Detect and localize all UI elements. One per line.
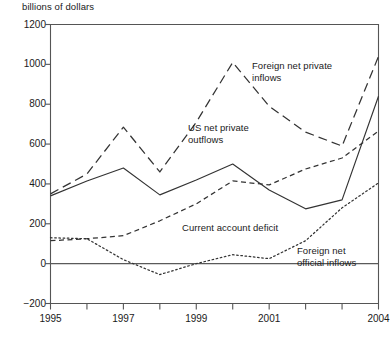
y-tick-label: 1200 [0,20,46,30]
foreign-net-private-inflows-label: Foreign net private inflows [252,60,332,83]
x-tick-label: 2004 [359,314,392,324]
current-account-deficit-label: Current account deficit [182,222,278,234]
chart-plot-area [0,0,392,345]
x-tick-label: 1997 [103,314,143,324]
y-tick-label: 200 [0,219,46,229]
x-tick-label: 1995 [31,314,71,324]
chart-figure: billions of dollars 12001000800600400200… [0,0,392,345]
x-tick-label: 2001 [249,314,289,324]
y-tick-label: 0 [0,259,46,269]
us-net-private-outflows-label: US net private outflows [188,122,249,145]
y-tick-label: 600 [0,139,46,149]
foreign-net-official-inflows-label: Foreign net official inflows [297,245,356,268]
y-tick-label: 800 [0,99,46,109]
y-tick-label: 1000 [0,59,46,69]
x-tick-label: 1999 [176,314,216,324]
y-tick-label: 400 [0,179,46,189]
y-tick-label: −200 [0,299,46,309]
data-series-group [51,56,379,274]
